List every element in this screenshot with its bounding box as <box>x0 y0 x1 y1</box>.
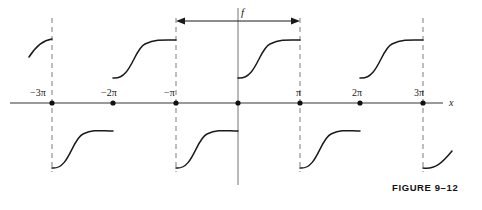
tick-label-pos-3pi: 3π <box>414 88 424 98</box>
figure-caption: FIGURE 9–12 <box>392 183 458 193</box>
curve-upper-partial-left <box>29 39 52 57</box>
curve-lower-neg3pi-neg2pi <box>52 131 113 168</box>
tick-dot-pos-2pi <box>357 100 362 105</box>
period-arrow-head-left-icon <box>176 18 185 25</box>
figure-graphic <box>0 0 482 210</box>
period-arrow-head-right-icon <box>291 18 300 25</box>
tick-dot-pos-3pi <box>420 100 425 105</box>
tick-dot-neg-3pi <box>49 100 54 105</box>
tick-dot-pos-pi <box>297 100 302 105</box>
tick-label-pos-2pi: 2π <box>352 88 362 98</box>
curve-lower-negpi-origin <box>176 131 238 168</box>
function-label-f: f <box>241 7 244 18</box>
curve-lower-partial-right <box>423 151 452 168</box>
tick-label-neg-2pi: −2π <box>101 88 117 98</box>
curve-upper-neg2pi-negpi <box>113 40 176 78</box>
figure-container: −3π −2π −π π 2π 3π x f FIGURE 9–12 <box>0 0 482 210</box>
curve-upper-2pi-3pi <box>360 40 423 78</box>
tick-label-neg-3pi: −3π <box>30 88 46 98</box>
curve-upper-origin-pi <box>238 40 300 78</box>
curve-lower-pi-2pi <box>300 131 360 168</box>
x-axis-label: x <box>449 98 453 108</box>
tick-dot-neg-2pi <box>110 100 115 105</box>
tick-dot-neg-pi <box>173 100 178 105</box>
tick-label-neg-pi: −π <box>164 88 175 98</box>
tick-dot-origin <box>235 100 240 105</box>
tick-label-pos-pi: π <box>296 88 301 98</box>
